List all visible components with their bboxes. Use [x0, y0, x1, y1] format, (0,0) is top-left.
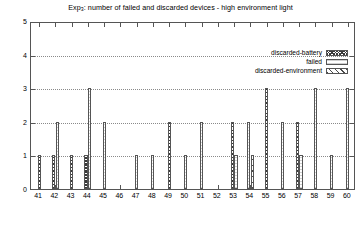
- x-tick-mark: [153, 23, 154, 27]
- x-tick-mark: [332, 23, 333, 27]
- x-tick-mark: [55, 23, 56, 27]
- plot-area: discarded-battery failed discarded-envir…: [30, 22, 355, 190]
- bar: [330, 155, 333, 189]
- x-tick-mark: [234, 23, 235, 27]
- x-tick-mark: [120, 185, 121, 189]
- bar: [70, 155, 73, 189]
- y-tick-mark: [350, 22, 354, 23]
- bar: [314, 88, 317, 189]
- legend-label-discarded-environment: discarded-environment: [255, 67, 322, 75]
- bar: [103, 122, 106, 189]
- y-axis-tick-label: 3: [3, 85, 27, 92]
- x-tick-mark: [104, 23, 105, 27]
- y-axis-tick-label: 4: [3, 52, 27, 59]
- bar: [299, 155, 302, 189]
- legend-item-discarded-environment: discarded-environment: [255, 67, 348, 75]
- bar: [151, 155, 154, 189]
- bar: [251, 155, 254, 189]
- y-tick-mark: [350, 156, 354, 157]
- x-tick-mark: [218, 23, 219, 27]
- x-tick-mark: [72, 23, 73, 27]
- y-axis-tick-label: 0: [3, 186, 27, 193]
- legend-item-discarded-battery: discarded-battery: [271, 49, 348, 57]
- y-axis-tick-label: 2: [3, 119, 27, 126]
- x-tick-mark: [283, 23, 284, 27]
- y-tick-mark: [31, 156, 35, 157]
- x-tick-mark: [202, 23, 203, 27]
- x-tick-mark: [185, 23, 186, 27]
- y-tick-mark: [31, 89, 35, 90]
- y-tick-mark: [350, 56, 354, 57]
- x-tick-mark: [250, 23, 251, 27]
- legend: discarded-battery failed discarded-envir…: [255, 49, 348, 75]
- y-tick-mark: [31, 22, 35, 23]
- gridline: [31, 123, 354, 124]
- y-tick-mark: [31, 123, 35, 124]
- legend-label-discarded-battery: discarded-battery: [271, 49, 322, 57]
- bar: [88, 88, 91, 189]
- bar: [247, 122, 250, 189]
- y-axis-labels: 012345: [0, 22, 27, 190]
- gridline: [31, 156, 354, 157]
- bar: [346, 88, 349, 189]
- bar: [84, 155, 87, 189]
- bar: [184, 155, 187, 189]
- bar: [265, 88, 268, 189]
- x-tick-mark: [315, 23, 316, 27]
- bar: [52, 155, 55, 189]
- gridline: [31, 89, 354, 90]
- bar: [200, 122, 203, 189]
- bar: [56, 122, 59, 189]
- legend-swatch-failed: [326, 59, 348, 65]
- bar: [296, 122, 299, 189]
- x-tick-mark: [348, 23, 349, 27]
- x-tick-mark: [88, 23, 89, 27]
- y-axis-tick-label: 1: [3, 152, 27, 159]
- bar: [281, 122, 284, 189]
- bar: [38, 155, 41, 189]
- bar: [168, 122, 171, 189]
- chart-title: Exp3: number of failed and discarded dev…: [0, 3, 361, 14]
- y-tick-mark: [350, 123, 354, 124]
- bar: [234, 155, 237, 189]
- bar: [231, 122, 234, 189]
- legend-label-failed: failed: [306, 58, 322, 66]
- x-tick-mark: [299, 23, 300, 27]
- legend-swatch-discarded-environment: [326, 68, 348, 74]
- x-tick-mark: [267, 23, 268, 27]
- y-axis-tick-label: 5: [3, 18, 27, 25]
- x-axis-tick-label: 60: [338, 192, 356, 200]
- bar: [135, 155, 138, 189]
- chart-title-prefix: Exp: [68, 3, 81, 12]
- x-tick-mark: [169, 23, 170, 27]
- x-tick-mark: [137, 23, 138, 27]
- y-tick-mark: [350, 89, 354, 90]
- chart-title-rest: : number of failed and discarded devices…: [84, 3, 293, 12]
- x-tick-mark: [120, 23, 121, 27]
- chart-root: Exp3: number of failed and discarded dev…: [0, 0, 361, 225]
- legend-item-failed: failed: [306, 58, 348, 66]
- legend-swatch-discarded-battery: [326, 50, 348, 56]
- x-tick-mark: [218, 185, 219, 189]
- x-axis-labels: 4142434445464748495051525354555657585960: [30, 192, 355, 206]
- x-tick-mark: [39, 23, 40, 27]
- y-tick-mark: [31, 56, 35, 57]
